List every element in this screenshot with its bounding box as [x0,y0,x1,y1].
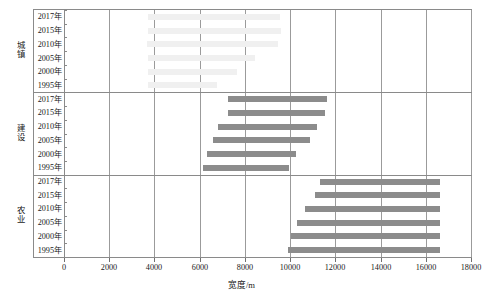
category-tick [64,37,67,38]
category-label: 1995年 [38,79,64,92]
category-tick [64,24,67,25]
category-label: 1995年 [38,161,64,174]
bar [305,206,440,212]
category-label: 2010年 [38,120,64,133]
group-divider-1 [33,92,472,93]
bar [147,41,278,47]
category-tick [64,51,67,52]
x-axis-tick [335,258,336,262]
category-label: 2010年 [38,38,64,51]
x-axis-title: 宽度/m [0,278,483,290]
bar [218,124,316,130]
category-tick [64,134,67,135]
category-label: 2005年 [38,134,64,147]
gridline-10000 [290,10,291,257]
category-label: 2000年 [38,230,64,243]
category-label: 2005年 [38,52,64,65]
category-label: 1995年 [38,244,64,257]
bar [148,28,281,34]
bar [315,192,440,198]
category-label: 2017年 [38,93,64,106]
bar [297,220,440,226]
category-label: 2015年 [38,189,64,202]
bar [213,137,310,143]
bar [291,233,440,239]
category-label: 2017年 [38,10,64,23]
category-tick [64,243,67,244]
bar [203,165,289,171]
bar [228,110,325,116]
group-divider-2 [33,175,472,176]
x-axis-tick [154,258,155,262]
group-label-1: 城镇 [12,41,26,59]
bar [207,151,296,157]
category-label: 2010年 [38,202,64,215]
category-tick [64,10,67,11]
bar [148,14,280,20]
x-axis-tick-label: 18000 [441,263,483,272]
bar [148,69,237,75]
x-axis-tick [426,258,427,262]
category-label: 2000年 [38,65,64,78]
category-label: 2015年 [38,24,64,37]
bar [320,179,440,185]
category-tick [64,92,67,93]
x-axis-tick [200,258,201,262]
group-label-3: 农业 [12,206,26,224]
gridline-2000 [109,10,110,257]
gridline-8000 [245,10,246,257]
category-tick [64,188,67,189]
bar [228,96,327,102]
x-axis-tick [109,258,110,262]
category-tick [64,79,67,80]
category-label: 2005年 [38,216,64,229]
category-label: 2017年 [38,175,64,188]
category-tick [64,230,67,231]
x-axis-tick [245,258,246,262]
gridline-18000 [471,10,472,257]
category-tick [64,120,67,121]
category-tick [64,106,67,107]
category-tick [64,202,67,203]
category-tick [64,161,67,162]
category-tick [64,147,67,148]
category-tick [64,65,67,66]
gridline-6000 [200,10,201,257]
x-axis-tick [381,258,382,262]
bar [288,247,440,253]
x-axis-tick [290,258,291,262]
bar [148,55,255,61]
category-tick [64,216,67,217]
bar [148,82,218,88]
group-label-2: 建设 [12,124,26,142]
range-bar-chart: 城镇2017年2015年2010年2005年2000年1995年建设2017年2… [0,0,483,300]
category-label: 2000年 [38,148,64,161]
x-axis-tick [64,258,65,262]
category-label: 2015年 [38,106,64,119]
category-tick [64,175,67,176]
gridline-4000 [154,10,155,257]
x-axis-tick [471,258,472,262]
